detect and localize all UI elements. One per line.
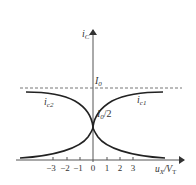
svg-text:0: 0 (91, 163, 96, 173)
differential-pair-transfer-diagram: iC I0 I0/2 ic2 ic1 −3 −2 −1 0 1 2 3 uX/V… (0, 0, 196, 185)
center-label: I0/2 (96, 108, 112, 121)
x-tick-labels: −3 −2 −1 0 1 2 3 (46, 163, 136, 173)
svg-text:3: 3 (131, 163, 136, 173)
ic2-label: ic2 (44, 96, 54, 109)
i0-label: I0 (94, 75, 102, 88)
svg-text:1: 1 (105, 163, 110, 173)
svg-text:−1: −1 (73, 163, 83, 173)
svg-text:−3: −3 (46, 163, 56, 173)
x-axis-label: uX/VT (155, 164, 176, 175)
svg-text:−2: −2 (60, 163, 70, 173)
svg-text:2: 2 (118, 163, 123, 173)
y-axis-label: iC (82, 28, 90, 41)
ic1-label: ic1 (137, 94, 146, 107)
